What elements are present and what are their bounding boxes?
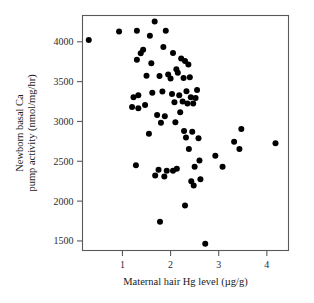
data-point (160, 44, 166, 50)
data-point (134, 57, 140, 63)
data-point (184, 101, 190, 107)
data-point (157, 73, 163, 79)
y-tick-label-3500: 3500 (54, 76, 74, 87)
data-point (142, 102, 148, 108)
data-point (190, 101, 196, 107)
data-point (161, 173, 167, 179)
y-tick-label-4000: 4000 (54, 36, 74, 47)
data-point (170, 168, 176, 174)
data-point (171, 99, 177, 105)
data-point (159, 89, 165, 95)
data-point (164, 168, 170, 174)
data-point (189, 129, 195, 135)
data-point (170, 50, 176, 56)
x-tick-label-1: 1 (120, 259, 125, 270)
data-point (162, 113, 168, 119)
y-axis-title-line1: Newborn basal Ca (14, 94, 25, 172)
x-axis-title: Maternal hair Hg level (µg/g) (123, 276, 248, 288)
data-point (177, 109, 183, 115)
x-tick-label-4: 4 (264, 259, 269, 270)
data-point (116, 29, 122, 35)
data-point (152, 173, 158, 179)
y-tick-label-2500: 2500 (54, 156, 74, 167)
data-point (186, 146, 192, 152)
data-point (183, 88, 189, 94)
data-point (169, 91, 175, 97)
data-point (212, 153, 218, 159)
data-point (86, 37, 92, 43)
data-point (148, 60, 154, 66)
data-point (196, 157, 202, 163)
data-point (182, 202, 188, 208)
data-point (144, 73, 150, 79)
data-point (187, 74, 193, 80)
data-point (146, 131, 152, 137)
data-point (185, 61, 191, 67)
data-point (129, 104, 135, 110)
data-point (138, 50, 144, 56)
y-axis-ticks: 150020002500300035004000 (54, 36, 83, 246)
data-point (157, 219, 163, 225)
data-point (133, 162, 139, 168)
y-axis-title-line2: pump activity (nmol/mg/hr) (26, 74, 38, 192)
data-point (220, 164, 226, 170)
data-point (192, 164, 198, 170)
data-point (191, 183, 197, 189)
data-point (163, 28, 169, 34)
data-point (175, 70, 181, 76)
x-tick-label-2: 2 (168, 259, 173, 270)
y-tick-label-2000: 2000 (54, 196, 74, 207)
data-point (156, 167, 162, 173)
x-tick-label-3: 3 (216, 259, 221, 270)
data-point (147, 33, 153, 39)
data-point (202, 241, 208, 247)
data-point (168, 75, 174, 81)
data-point (135, 92, 141, 98)
y-tick-label-3000: 3000 (54, 116, 74, 127)
plot-canvas: 1234 150020002500300035004000 Maternal h… (0, 0, 314, 303)
data-point (236, 146, 242, 152)
data-point (193, 95, 199, 101)
data-point (176, 92, 182, 98)
data-point (149, 90, 155, 96)
data-point (152, 18, 158, 24)
scatter-plot-figure: 1234 150020002500300035004000 Maternal h… (0, 0, 314, 303)
x-axis-ticks: 1234 (120, 251, 269, 270)
data-point (172, 119, 178, 125)
data-point (196, 135, 202, 141)
data-point (158, 120, 164, 126)
data-point (238, 126, 244, 132)
data-point (181, 128, 187, 134)
data-point (135, 105, 141, 111)
data-point (154, 112, 160, 118)
data-point (273, 140, 279, 146)
y-tick-label-1500: 1500 (54, 235, 74, 246)
data-point (134, 28, 140, 34)
data-point (231, 139, 237, 145)
data-point (194, 87, 200, 93)
data-point (181, 75, 187, 81)
data-point (197, 176, 203, 182)
data-point (183, 134, 189, 140)
data-points-layer (86, 18, 279, 246)
